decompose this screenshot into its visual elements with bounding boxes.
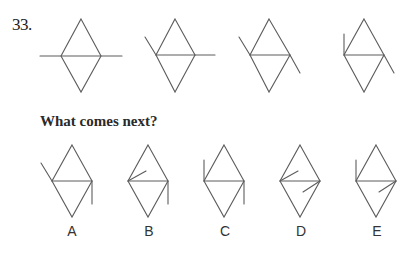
option-e-label[interactable]: E xyxy=(367,223,387,239)
option-b-label[interactable]: B xyxy=(139,223,159,239)
diagonal-extension-left xyxy=(239,37,250,55)
sequence-figure-4 xyxy=(344,19,394,92)
sequence-figure-3 xyxy=(239,19,300,92)
sequence-figure-1 xyxy=(40,19,122,92)
question-prompt: What comes next? xyxy=(40,113,157,130)
diagonal-extension-right xyxy=(384,55,394,73)
sequence-figure-2 xyxy=(145,19,215,92)
option-d-label[interactable]: D xyxy=(291,223,311,239)
diagonal-extension-right xyxy=(290,55,300,73)
option-a-label[interactable]: A xyxy=(62,223,82,239)
option-c-label[interactable]: C xyxy=(215,223,235,239)
diagonal-extension-left xyxy=(145,37,156,55)
